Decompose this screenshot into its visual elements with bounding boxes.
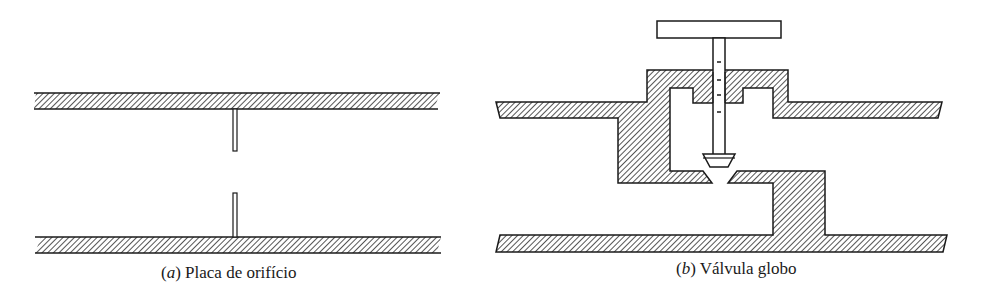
orifice-plate-figure	[34, 93, 441, 253]
valve-body-right	[496, 171, 947, 252]
caption-orifice-plate: (a) Placa de orifício	[161, 263, 297, 283]
handwheel	[657, 21, 781, 38]
orifice-plate-lower	[233, 193, 237, 237]
lower-pipe-wall	[35, 237, 441, 253]
caption-letter: b	[682, 259, 691, 278]
valve-disc	[703, 154, 735, 167]
caption-globe-valve: (b) Válvula globo	[676, 259, 797, 279]
diagram-canvas	[0, 0, 983, 297]
upper-pipe-wall	[34, 93, 440, 109]
globe-valve-figure	[496, 21, 947, 252]
valve-stem	[713, 38, 725, 155]
orifice-plate-upper	[233, 109, 237, 151]
caption-letter: a	[167, 263, 176, 282]
caption-label: Válvula globo	[700, 259, 797, 278]
caption-label: Placa de orifício	[185, 263, 296, 282]
